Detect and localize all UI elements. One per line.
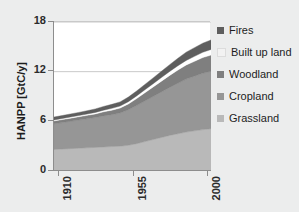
legend-label-woodland: Woodland	[229, 68, 278, 80]
x-tick-mark-2000	[207, 171, 208, 176]
plot-area	[53, 21, 210, 170]
y-tick-mark-18	[48, 21, 53, 22]
legend-item-grassland: Grassland	[217, 112, 297, 124]
x-tick-mark-1955	[133, 171, 134, 176]
chart-figure: 18 12 6 0 1910 1955 2000 HANPP [GtC/y] F…	[0, 0, 299, 212]
legend-swatch-fires	[217, 27, 224, 34]
chart-legend: Fires Built up land Woodland Cropland Gr…	[217, 24, 297, 134]
y-axis-line	[53, 21, 54, 171]
x-axis-line	[53, 170, 211, 171]
legend-item-built-up-land: Built up land	[217, 46, 297, 58]
legend-item-cropland: Cropland	[217, 90, 297, 102]
legend-item-woodland: Woodland	[217, 68, 297, 80]
y-tick-label-18: 18	[6, 15, 46, 26]
y-tick-mark-0	[48, 170, 53, 171]
x-tick-label-1910: 1910	[62, 176, 73, 200]
legend-swatch-woodland	[217, 71, 224, 78]
y-tick-mark-6	[48, 120, 53, 121]
y-tick-label-0: 0	[6, 164, 46, 175]
legend-item-fires: Fires	[217, 24, 297, 36]
legend-label-cropland: Cropland	[229, 90, 274, 102]
stacked-area-svg	[54, 22, 211, 171]
x-tick-label-2000: 2000	[211, 176, 222, 200]
legend-swatch-grassland	[217, 115, 224, 122]
legend-label-built-up-land: Built up land	[231, 46, 292, 58]
y-tick-mark-12	[48, 70, 53, 71]
legend-swatch-built-up-land	[217, 48, 226, 57]
y-axis-title: HANPP [GtC/y]	[15, 41, 27, 161]
legend-swatch-cropland	[217, 93, 224, 100]
x-tick-label-1955: 1955	[137, 176, 148, 200]
legend-label-fires: Fires	[229, 24, 253, 36]
legend-label-grassland: Grassland	[229, 112, 279, 124]
x-tick-mark-1910	[58, 171, 59, 176]
